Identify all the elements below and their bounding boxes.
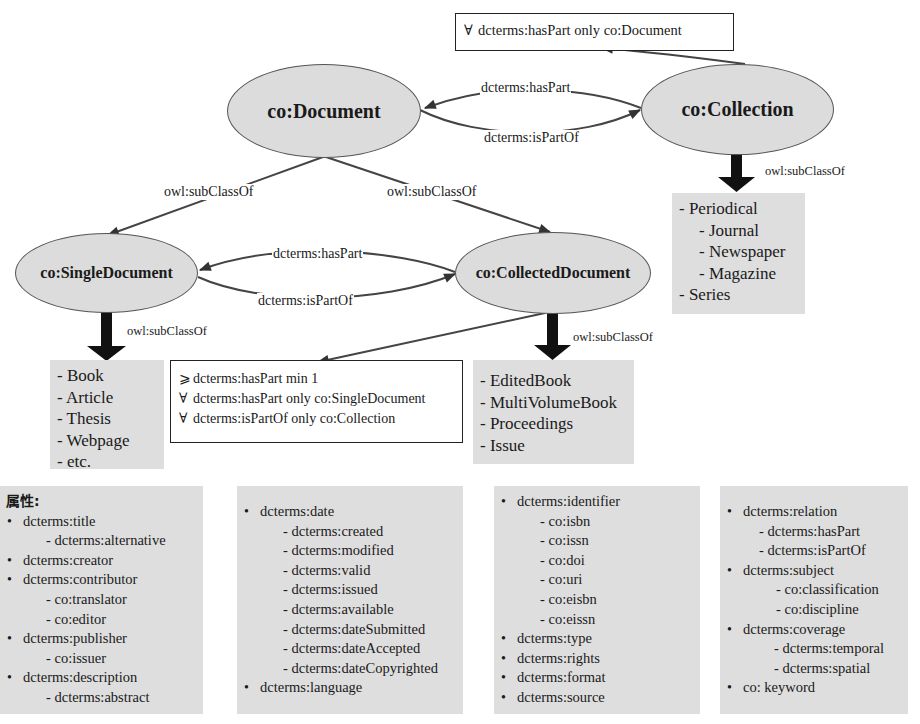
- subclass-item: - Thesis: [57, 408, 157, 430]
- property-subitem: co:translator: [6, 590, 197, 610]
- property-item: dcterms:language: [243, 678, 457, 698]
- property-item: dcterms:coverage: [726, 620, 902, 640]
- edge-label-subclass-collection: owl:subClassOf: [764, 163, 846, 179]
- property-subitem: dcterms:isPartOf: [726, 541, 902, 561]
- property-subitem: dcterms:hasPart: [726, 522, 902, 542]
- edge-label-subclass-single: owl:subClassOf: [126, 323, 208, 339]
- property-subitem: dcterms:valid: [243, 561, 457, 581]
- property-item: co: keyword: [726, 678, 902, 698]
- subclass-item: - Webpage: [57, 430, 157, 452]
- property-subitem: dcterms:spatial: [726, 659, 902, 679]
- edge-label-haspart-top: dcterms:hasPart: [480, 80, 571, 96]
- subclass-item: - Magazine: [679, 263, 798, 285]
- property-subitem: dcterms:dateSubmitted: [243, 620, 457, 640]
- edge-collected-constraint: [318, 313, 545, 362]
- node-label: co:Document: [267, 100, 380, 123]
- property-subitem: co:editor: [6, 610, 197, 630]
- edge-label-subclass-collected: owl:subClassOf: [572, 329, 654, 345]
- constraint-box-collected-document: ⩾dcterms:hasPart min 1 ∀dcterms:hasPart …: [170, 360, 463, 443]
- node-co-collected-document: co:CollectedDocument: [455, 232, 651, 314]
- constraint-line: ∀dcterms:isPartOf only co:Collection: [179, 409, 454, 429]
- property-subitem: dcterms:abstract: [6, 688, 197, 708]
- node-co-single-document: co:SingleDocument: [15, 233, 198, 313]
- constraint-line: ∀dcterms:hasPart only co:Document: [464, 20, 725, 40]
- geq-symbol: ⩾: [179, 369, 193, 389]
- property-subitem: co:uri: [500, 570, 694, 590]
- edge-label-subclass-left: owl:subClassOf: [163, 184, 254, 200]
- edge-label-ispartof-top: dcterms:isPartOf: [483, 130, 580, 146]
- subclass-list-single-document: - Book - Article - Thesis - Webpage - et…: [50, 360, 164, 469]
- node-label: co:Collection: [681, 98, 793, 121]
- property-item: dcterms:date: [243, 502, 457, 522]
- subclass-item: - Periodical: [679, 198, 798, 220]
- thick-arrow-single: [87, 312, 126, 361]
- property-item: dcterms:title: [6, 512, 197, 532]
- subclass-item: - Issue: [480, 435, 627, 457]
- property-item: dcterms:format: [500, 668, 694, 688]
- constraint-box-collection: ∀dcterms:hasPart only co:Document: [455, 13, 734, 51]
- property-item: dcterms:rights: [500, 649, 694, 669]
- subclass-list-collection: - Periodical - Journal - Newspaper - Mag…: [672, 193, 805, 314]
- property-subitem: dcterms:issued: [243, 580, 457, 600]
- property-panel-4: dcterms:relation dcterms:hasPart dcterms…: [720, 486, 908, 714]
- property-panel-3: dcterms:identifier co:isbn co:issn co:do…: [494, 486, 700, 714]
- subclass-item: - Article: [57, 387, 157, 409]
- property-panel-1: 属性: dcterms:title dcterms:alternative dc…: [0, 486, 203, 714]
- constraint-line: ∀dcterms:hasPart only co:SingleDocument: [179, 389, 454, 409]
- edge-label-subclass-right: owl:subClassOf: [386, 184, 477, 200]
- subclass-item: - Series: [679, 284, 798, 306]
- subclass-item: - EditedBook: [480, 370, 627, 392]
- property-subitem: dcterms:available: [243, 600, 457, 620]
- edge-label-haspart-mid: dcterms:hasPart: [272, 246, 363, 262]
- property-subitem: co:isbn: [500, 512, 694, 532]
- property-item: dcterms:contributor: [6, 570, 197, 590]
- property-subitem: co:issn: [500, 531, 694, 551]
- subclass-item: - Newspaper: [679, 241, 798, 263]
- subclass-item: - etc.: [57, 451, 157, 473]
- property-subitem: co:eissn: [500, 610, 694, 630]
- property-subitem: dcterms:created: [243, 522, 457, 542]
- property-panel-2: dcterms:date dcterms:created dcterms:mod…: [237, 486, 463, 714]
- property-subitem: dcterms:modified: [243, 541, 457, 561]
- property-subitem: co:classification: [726, 580, 902, 600]
- property-item: dcterms:source: [500, 688, 694, 708]
- property-item: dcterms:publisher: [6, 629, 197, 649]
- subclass-item: - Journal: [679, 220, 798, 242]
- property-item: dcterms:identifier: [500, 492, 694, 512]
- forall-symbol: ∀: [179, 409, 193, 429]
- property-item: dcterms:description: [6, 668, 197, 688]
- property-item: dcterms:subject: [726, 561, 902, 581]
- subclass-item: - MultiVolumeBook: [480, 392, 627, 414]
- node-label: co:CollectedDocument: [476, 264, 631, 282]
- property-subitem: dcterms:dateAccepted: [243, 639, 457, 659]
- edge-label-ispartof-mid: dcterms:isPartOf: [257, 293, 354, 309]
- thick-arrow-collected: [534, 313, 571, 360]
- property-item: dcterms:creator: [6, 551, 197, 571]
- subclass-list-collected-document: - EditedBook - MultiVolumeBook - Proceed…: [473, 360, 634, 464]
- property-subitem: dcterms:alternative: [6, 531, 197, 551]
- property-item: dcterms:relation: [726, 502, 902, 522]
- property-subitem: co:issuer: [6, 649, 197, 669]
- property-subitem: co:discipline: [726, 600, 902, 620]
- property-item: dcterms:type: [500, 629, 694, 649]
- forall-symbol: ∀: [464, 20, 478, 40]
- constraint-line: ⩾dcterms:hasPart min 1: [179, 369, 454, 389]
- node-label: co:SingleDocument: [40, 264, 172, 282]
- property-subitem: dcterms:temporal: [726, 639, 902, 659]
- thick-arrow-collection: [718, 154, 755, 192]
- properties-heading: 属性:: [6, 492, 197, 512]
- subclass-item: - Proceedings: [480, 413, 627, 435]
- property-subitem: dcterms:dateCopyrighted: [243, 659, 457, 679]
- node-co-collection: co:Collection: [641, 64, 834, 155]
- subclass-item: - Book: [57, 365, 157, 387]
- node-co-document: co:Document: [227, 64, 421, 158]
- forall-symbol: ∀: [179, 389, 193, 409]
- property-subitem: co:eisbn: [500, 590, 694, 610]
- property-subitem: co:doi: [500, 551, 694, 571]
